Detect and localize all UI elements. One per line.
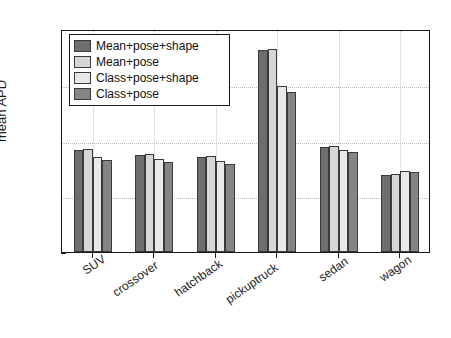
bar <box>277 86 287 252</box>
legend: Mean+pose+shapeMean+poseClass+pose+shape… <box>69 34 230 106</box>
legend-swatch <box>74 40 91 52</box>
legend-item: Mean+pose+shape <box>74 38 225 54</box>
x-axis-tick-label: SUV <box>80 252 108 278</box>
bar <box>135 155 145 252</box>
bar <box>400 171 410 252</box>
bar <box>102 160 112 252</box>
bar <box>329 146 339 252</box>
legend-item: Class+pose <box>74 86 225 102</box>
bar-group <box>258 31 296 252</box>
bar <box>391 174 401 252</box>
x-axis-tick-label: wagon <box>377 253 414 285</box>
legend-label: Class+pose+shape <box>96 72 199 84</box>
bar-group <box>381 31 419 252</box>
x-axis-tick-label: sedan <box>316 254 351 284</box>
bar <box>216 161 226 252</box>
bar <box>287 92 297 252</box>
bar <box>74 150 84 252</box>
legend-item: Class+pose+shape <box>74 70 225 86</box>
bar <box>206 156 216 252</box>
bar <box>381 175 391 252</box>
bar <box>348 152 358 252</box>
x-axis-tick-label: hatchback <box>172 256 225 299</box>
legend-label: Class+pose <box>96 88 159 100</box>
bar <box>268 49 278 252</box>
legend-label: Mean+pose+shape <box>96 40 199 52</box>
y-axis-label: mean APD <box>0 80 9 142</box>
bar <box>258 50 268 252</box>
bar <box>145 154 155 252</box>
bar <box>154 159 164 252</box>
bar <box>83 149 93 252</box>
bar <box>410 172 420 252</box>
bar <box>197 157 207 252</box>
bar <box>320 147 330 252</box>
bar <box>225 164 235 252</box>
legend-item: Mean+pose <box>74 54 225 70</box>
bar <box>339 150 349 252</box>
bar-group <box>320 31 358 252</box>
figure: mean APD 010203040 SUVcrossoverhatchback… <box>0 0 451 338</box>
y-axis-tick-mark <box>61 253 66 254</box>
x-axis-tick-label: crossover <box>110 258 161 299</box>
legend-swatch <box>74 56 91 68</box>
bar <box>93 157 103 252</box>
legend-swatch <box>74 72 91 84</box>
x-axis-tick-mark <box>153 253 154 258</box>
x-axis-tick-label: pickuptruck <box>223 260 281 306</box>
legend-label: Mean+pose <box>96 56 159 68</box>
x-axis-tick-mark <box>276 253 277 258</box>
legend-swatch <box>74 88 91 100</box>
bar <box>164 162 174 252</box>
